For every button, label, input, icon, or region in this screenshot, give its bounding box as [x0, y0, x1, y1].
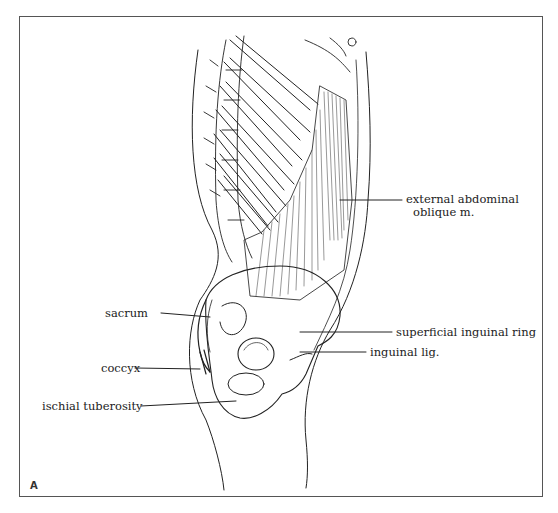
front-outline [305, 52, 370, 488]
label-external-abdominal-oblique: external abdominal oblique m. [406, 193, 519, 219]
label-ischial-tuberosity: ischial tuberosity [42, 400, 143, 413]
label-inguinal-ligament: inguinal lig. [370, 346, 440, 359]
panel-letter: A [30, 480, 38, 491]
label-line-2: oblique m. [406, 206, 519, 219]
label-coccyx: coccyx [101, 362, 140, 375]
leader-lines [135, 200, 402, 406]
ribs [214, 36, 318, 234]
scapula [305, 38, 350, 72]
anatomy-illustration [0, 0, 558, 513]
inguinal-ligament-line [290, 353, 312, 360]
back-outline [189, 50, 224, 490]
label-superficial-inguinal-ring: superficial inguinal ring [396, 326, 536, 339]
sacrum-bone [198, 300, 210, 372]
label-sacrum: sacrum [105, 307, 148, 320]
obturator-foramen [228, 373, 264, 395]
sciatic-notch [220, 303, 246, 335]
